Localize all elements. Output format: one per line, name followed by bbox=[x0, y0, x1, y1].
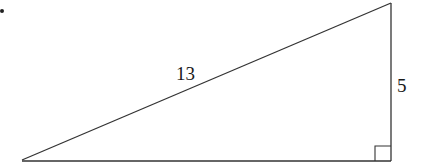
right-triangle-diagram: 13 5 bbox=[0, 0, 426, 168]
vertical-leg-label: 5 bbox=[397, 75, 407, 96]
right-angle-marker bbox=[375, 146, 391, 161]
hypotenuse-label: 13 bbox=[176, 63, 195, 84]
bullet-marker bbox=[0, 9, 4, 13]
hypotenuse-line bbox=[22, 3, 391, 160]
